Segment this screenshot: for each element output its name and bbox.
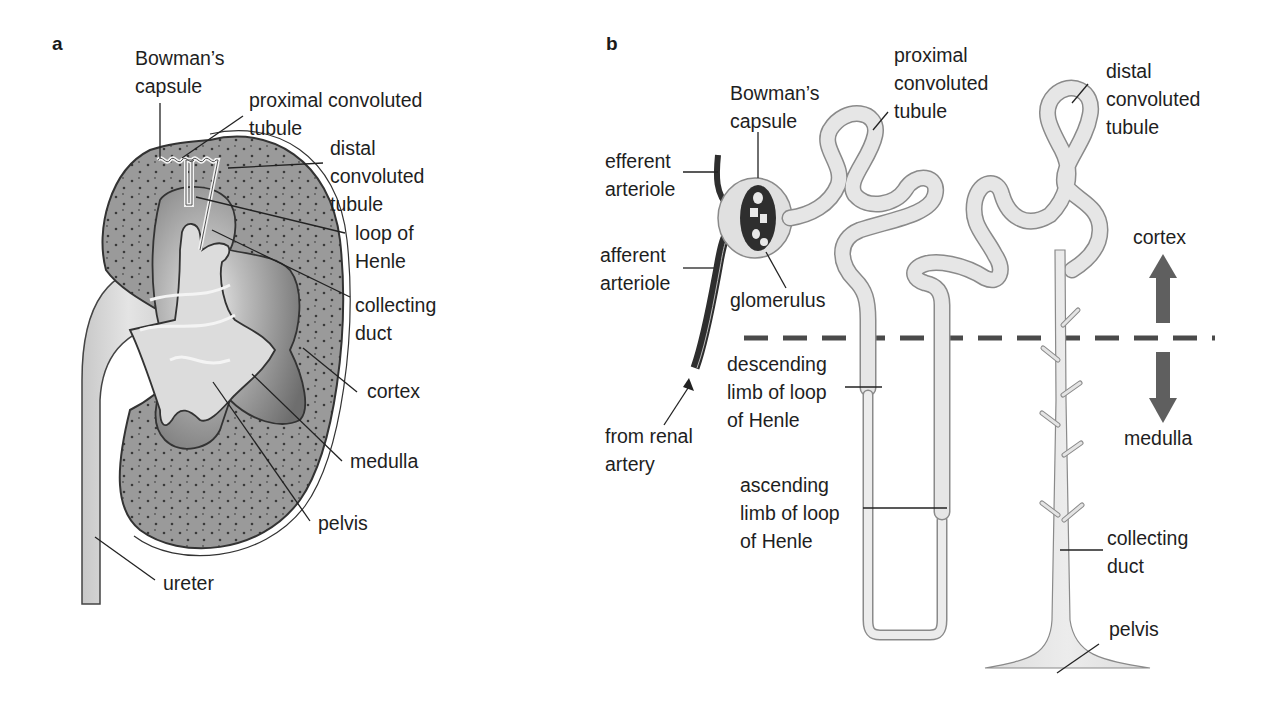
label-b-glomerulus: glomerulus xyxy=(730,289,826,311)
panel-a-letter: a xyxy=(52,33,63,54)
label-b-cortex: cortex xyxy=(1133,226,1186,248)
panel-b-leaders xyxy=(664,84,1103,673)
label-a-collecting-duct: collecting duct xyxy=(355,294,442,344)
label-b-afferent-arteriole: afferent arteriole xyxy=(600,244,671,294)
label-a-medulla: medulla xyxy=(350,450,418,472)
label-a-bowmans-capsule: Bowman’s capsule xyxy=(135,47,230,97)
label-b-pelvis: pelvis xyxy=(1109,618,1159,640)
label-b-ascending-limb: ascending limb of loop of Henle xyxy=(740,474,845,552)
arrow-up-icon xyxy=(1149,254,1177,323)
panel-b-letter: b xyxy=(606,33,618,54)
label-b-distal-convoluted-tubule: distal convoluted tubule xyxy=(1106,60,1206,138)
label-b-collecting-duct: collecting duct xyxy=(1107,527,1194,577)
label-a-ureter: ureter xyxy=(163,572,214,594)
label-a-cortex: cortex xyxy=(367,380,420,402)
label-a-pelvis: pelvis xyxy=(318,512,368,534)
label-b-proximal-convoluted-tubule: proximal convoluted tubule xyxy=(894,44,994,122)
panel-b: b xyxy=(600,33,1215,673)
label-b-descending-limb: descending limb of loop of Henle xyxy=(727,353,832,431)
label-a-proximal-convoluted-tubule: proximal convoluted tubule xyxy=(249,89,428,139)
label-a-loop-of-henle: loop of Henle xyxy=(355,222,419,272)
label-b-from-renal-artery: from renal artery xyxy=(605,425,698,475)
label-a-distal-convoluted-tubule: distal convoluted tubule xyxy=(330,137,430,215)
arrow-down-icon xyxy=(1149,352,1177,423)
label-b-bowmans-capsule: Bowman’s capsule xyxy=(730,82,825,132)
collecting-duct-shape xyxy=(985,250,1150,668)
label-b-efferent-arteriole: efferent arteriole xyxy=(605,150,676,200)
panel-b-labels: efferent arteriole Bowman’s capsule prox… xyxy=(600,44,1206,640)
label-b-medulla: medulla xyxy=(1124,427,1192,449)
panel-a: a xyxy=(52,33,442,604)
bowmans-capsule-shape xyxy=(718,178,792,258)
kidney-nephron-figure: a xyxy=(0,0,1263,704)
